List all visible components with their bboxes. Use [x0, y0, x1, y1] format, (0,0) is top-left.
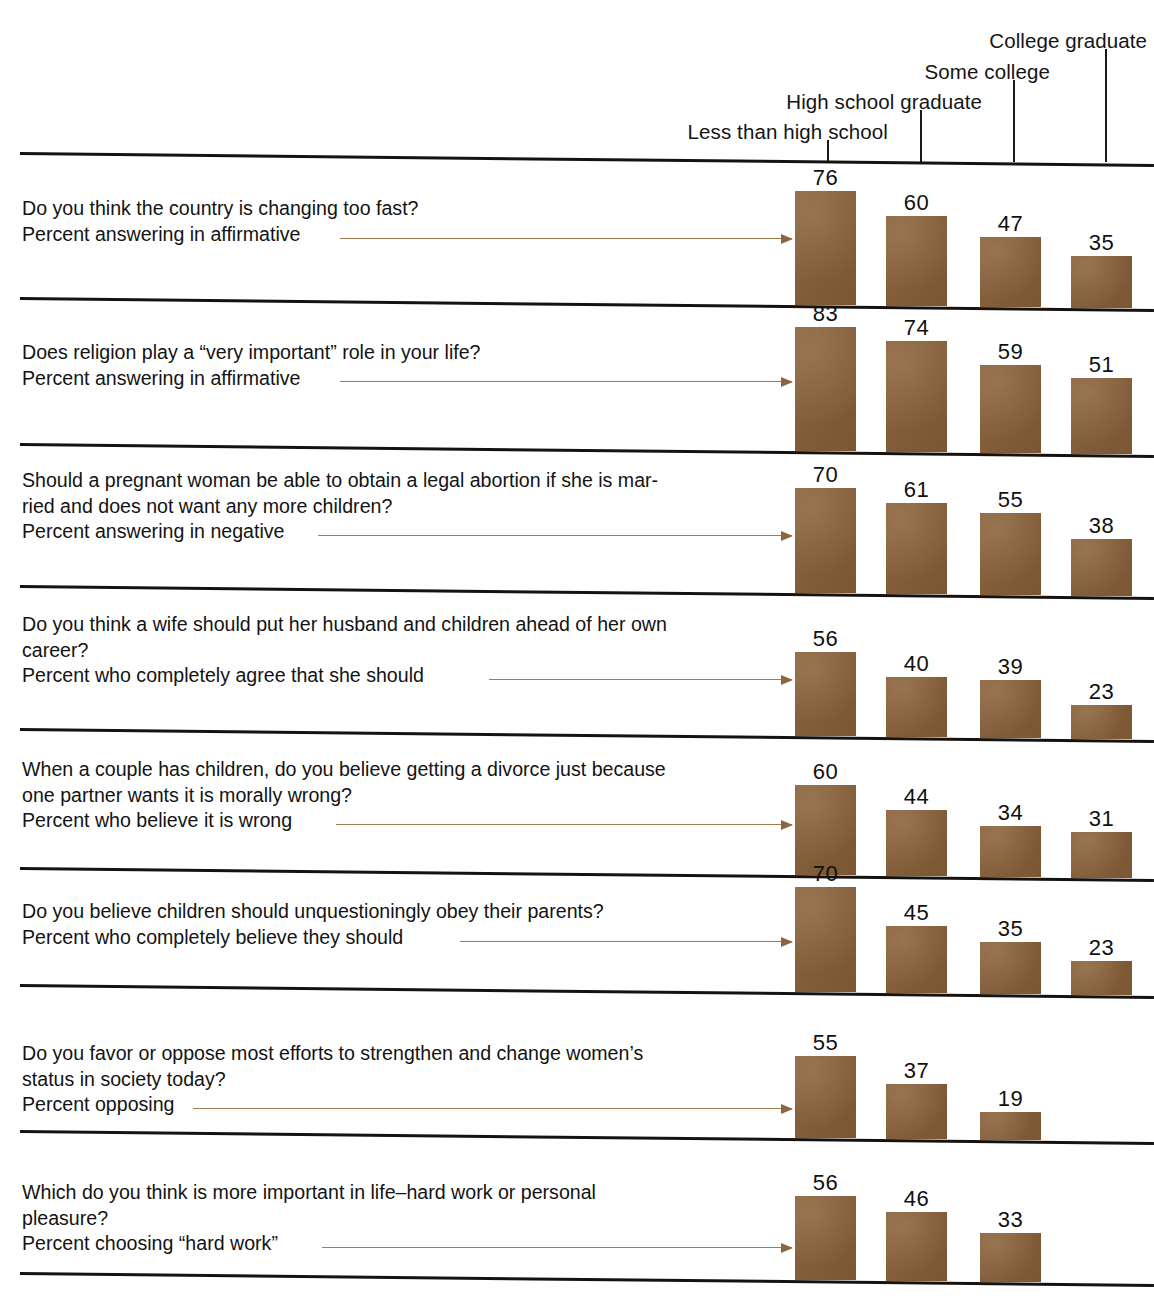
metric-label-0: Percent answering in affirmative: [22, 222, 300, 248]
bar-3-2: [980, 680, 1041, 739]
metric-arrow-6: [193, 1108, 792, 1109]
bar-3-0: [795, 652, 856, 736]
bar-5-0: [795, 887, 856, 992]
bar-7-0: [795, 1196, 856, 1280]
bar-value-1-3: 51: [1071, 352, 1132, 378]
bar-0-1: [886, 216, 947, 306]
bar-0-2: [980, 237, 1041, 308]
bar-7-2: [980, 1233, 1041, 1283]
bar-6-0: [795, 1056, 856, 1139]
bar-value-1-1: 74: [886, 315, 947, 341]
bar-1-1: [886, 341, 947, 452]
bar-value-3-2: 39: [980, 654, 1041, 680]
question-text-0: Do you think the country is changing too…: [22, 196, 792, 222]
bar-value-1-0: 83: [795, 301, 856, 327]
bar-4-2: [980, 826, 1041, 877]
question-text-7: Which do you think is more important in …: [22, 1180, 792, 1231]
bar-2-3: [1071, 539, 1132, 596]
bar-value-5-0: 70: [795, 861, 856, 887]
column-label-0: Less than high school: [688, 120, 888, 144]
bar-5-1: [886, 926, 947, 994]
column-label-2: Some college: [925, 60, 1050, 84]
column-leader-line-1: [920, 110, 922, 162]
bar-value-2-2: 55: [980, 487, 1041, 513]
bar-value-6-0: 55: [795, 1030, 856, 1056]
bar-6-2: [980, 1112, 1041, 1141]
bar-value-6-1: 37: [886, 1058, 947, 1084]
bar-5-2: [980, 942, 1041, 995]
bar-4-1: [886, 810, 947, 876]
column-label-1: High school graduate: [786, 90, 982, 114]
bar-value-0-1: 60: [886, 190, 947, 216]
question-text-1: Does religion play a “very important” ro…: [22, 340, 792, 366]
metric-arrow-2: [318, 535, 792, 536]
metric-label-4: Percent who believe it is wrong: [22, 808, 292, 834]
bar-3-1: [886, 677, 947, 737]
bar-value-4-1: 44: [886, 784, 947, 810]
bar-value-2-3: 38: [1071, 513, 1132, 539]
bar-value-4-2: 34: [980, 800, 1041, 826]
bar-value-5-1: 45: [886, 900, 947, 926]
bar-1-2: [980, 365, 1041, 454]
column-label-3: College graduate: [989, 29, 1147, 53]
column-leader-line-2: [1013, 80, 1015, 162]
bar-5-3: [1071, 961, 1132, 996]
bar-value-1-2: 59: [980, 339, 1041, 365]
column-legend: Less than high schoolHigh school graduat…: [0, 0, 1154, 155]
bar-value-7-0: 56: [795, 1170, 856, 1196]
metric-label-5: Percent who completely believe they shou…: [22, 925, 403, 951]
metric-arrow-0: [340, 238, 792, 239]
metric-label-1: Percent answering in affirmative: [22, 366, 300, 392]
metric-arrow-3: [489, 679, 792, 680]
bar-value-0-2: 47: [980, 211, 1041, 237]
bar-value-6-2: 19: [980, 1086, 1041, 1112]
bar-7-1: [886, 1212, 947, 1281]
bar-2-1: [886, 503, 947, 595]
question-text-6: Do you favor or oppose most efforts to s…: [22, 1041, 792, 1092]
bar-value-2-0: 70: [795, 462, 856, 488]
bar-value-4-0: 60: [795, 759, 856, 785]
bar-value-3-3: 23: [1071, 679, 1132, 705]
bar-1-0: [795, 327, 856, 452]
bar-0-0: [795, 191, 856, 305]
metric-arrow-7: [322, 1247, 792, 1248]
metric-arrow-1: [340, 381, 792, 382]
bar-0-3: [1071, 256, 1132, 309]
bar-value-3-0: 56: [795, 626, 856, 652]
bar-2-2: [980, 513, 1041, 596]
bar-value-5-2: 35: [980, 916, 1041, 942]
question-text-3: Do you think a wife should put her husba…: [22, 612, 792, 663]
bar-value-0-0: 76: [795, 165, 856, 191]
metric-label-2: Percent answering in negative: [22, 519, 285, 545]
metric-label-3: Percent who completely agree that she sh…: [22, 663, 424, 689]
question-text-2: Should a pregnant woman be able to obtai…: [22, 468, 792, 519]
question-text-4: When a couple has children, do you belie…: [22, 757, 792, 808]
metric-arrow-5: [460, 941, 792, 942]
column-leader-line-0: [827, 140, 829, 162]
bar-4-3: [1071, 832, 1132, 879]
bar-1-3: [1071, 378, 1132, 455]
bar-6-1: [886, 1084, 947, 1140]
bar-2-0: [795, 488, 856, 593]
metric-arrow-4: [336, 824, 792, 825]
column-leader-line-3: [1105, 49, 1107, 162]
question-text-5: Do you believe children should unquestio…: [22, 899, 792, 925]
metric-label-7: Percent choosing “hard work”: [22, 1231, 278, 1257]
bar-value-7-1: 46: [886, 1186, 947, 1212]
bar-value-7-2: 33: [980, 1207, 1041, 1233]
bar-value-3-1: 40: [886, 651, 947, 677]
bar-value-4-3: 31: [1071, 806, 1132, 832]
bar-value-2-1: 61: [886, 477, 947, 503]
metric-label-6: Percent opposing: [22, 1092, 175, 1118]
bar-3-3: [1071, 705, 1132, 740]
bar-value-5-3: 23: [1071, 935, 1132, 961]
bar-value-0-3: 35: [1071, 230, 1132, 256]
